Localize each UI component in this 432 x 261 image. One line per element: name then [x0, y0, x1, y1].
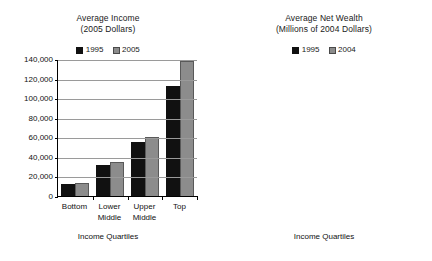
gridline — [58, 158, 197, 159]
y-axis-tick-label: 40,000 — [29, 154, 53, 162]
legend-label-1995: 1995 — [86, 45, 104, 55]
legend-swatch-icon-2005 — [113, 47, 120, 54]
legend-entry-2005: 2005 — [113, 45, 140, 55]
chart-panel-average-income: Average Income (2005 Dollars) 1995 2005 … — [0, 0, 216, 261]
chart-title-average-net-wealth: Average Net Wealth (Millions of 2004 Dol… — [216, 13, 432, 35]
plot-area-average-income: 020,00040,00060,00080,000100,000120,0001… — [57, 60, 197, 197]
bar-2005-upper-middle — [145, 137, 159, 196]
y-axis-tick-label: 20,000 — [29, 173, 53, 181]
x-category-label-line: Bottom — [57, 201, 92, 212]
y-axis-tick-label: 60,000 — [29, 134, 53, 142]
legend-entry-1995: 1995 — [76, 45, 103, 55]
legend-label-2005: 2005 — [122, 45, 140, 55]
y-axis-tick-label: 140,000 — [24, 56, 53, 64]
legend-label-2004: 2004 — [338, 45, 356, 55]
legend-swatch-icon-1995 — [292, 47, 299, 54]
chart-legend-average-income: 1995 2005 — [0, 45, 216, 55]
y-axis-tick — [55, 158, 59, 159]
bar-2005-lower-middle — [110, 162, 124, 196]
chart-title-line-1: Average Net Wealth — [216, 13, 432, 24]
x-axis-tick — [197, 196, 198, 200]
y-axis-tick — [55, 80, 59, 81]
chart-panel-average-net-wealth: Average Net Wealth (Millions of 2004 Dol… — [216, 0, 432, 261]
x-category-label-line: Top — [162, 201, 197, 212]
x-axis-title-average-net-wealth: Income Quartiles — [216, 232, 432, 241]
gridline — [58, 80, 197, 81]
bar-1995-upper-middle — [131, 142, 145, 196]
x-category-label: UpperMiddle — [127, 201, 162, 223]
legend-entry-2004: 2004 — [329, 45, 356, 55]
chart-title-line-2: (Millions of 2004 Dollars) — [216, 24, 432, 35]
chart-title-average-income: Average Income (2005 Dollars) — [0, 13, 216, 35]
bar-1995-top — [166, 86, 180, 196]
x-category-label-line: Middle — [127, 212, 162, 223]
plot-axes-average-income: 020,00040,00060,00080,000100,000120,0001… — [57, 60, 197, 197]
y-axis-tick — [55, 177, 59, 178]
chart-title-line-2: (2005 Dollars) — [0, 24, 216, 35]
legend-swatch-icon-2004 — [329, 47, 336, 54]
y-axis-tick — [55, 119, 59, 120]
bar-2005-bottom — [75, 183, 89, 196]
chart-page: Average Income (2005 Dollars) 1995 2005 … — [0, 0, 432, 261]
gridline — [58, 99, 197, 100]
x-category-label: Bottom — [57, 201, 92, 212]
legend-entry-1995: 1995 — [292, 45, 319, 55]
y-axis-tick-label: 80,000 — [29, 115, 53, 123]
gridline — [58, 177, 197, 178]
x-category-label: LowerMiddle — [92, 201, 127, 223]
y-axis-tick-label: 100,000 — [24, 95, 53, 103]
y-axis-tick — [55, 60, 59, 61]
gridline — [58, 138, 197, 139]
y-axis-tick-label: 0 — [49, 193, 53, 201]
x-category-label: Top — [162, 201, 197, 212]
bar-1995-bottom — [61, 184, 75, 196]
y-axis-tick — [55, 99, 59, 100]
x-category-label-line: Middle — [92, 212, 127, 223]
x-category-label-line: Upper — [127, 201, 162, 212]
chart-legend-average-net-wealth: 1995 2004 — [216, 45, 432, 55]
x-axis-title-average-income: Income Quartiles — [0, 232, 216, 241]
bar-1995-lower-middle — [96, 165, 110, 196]
legend-label-1995: 1995 — [302, 45, 320, 55]
bar-2005-top — [180, 61, 194, 196]
gridline — [58, 60, 197, 61]
y-axis-tick — [55, 138, 59, 139]
chart-title-line-1: Average Income — [0, 13, 216, 24]
x-category-labels-average-income: BottomLowerMiddleUpperMiddleTop — [57, 197, 197, 231]
legend-swatch-icon-1995 — [76, 47, 83, 54]
y-axis-tick-label: 120,000 — [24, 76, 53, 84]
gridline — [58, 119, 197, 120]
x-category-label-line: Lower — [92, 201, 127, 212]
